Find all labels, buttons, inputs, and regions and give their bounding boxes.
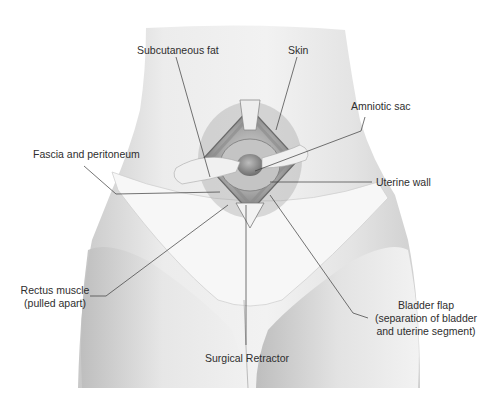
label-surgical-retractor: Surgical Retractor — [205, 352, 289, 365]
label-uterine-wall: Uterine wall — [376, 176, 431, 189]
label-rectus-muscle-line2: (pulled apart) — [20, 297, 90, 310]
label-bladder-flap-line1: Bladder flap — [374, 299, 478, 312]
label-skin: Skin — [288, 44, 308, 57]
label-rectus-muscle-line1: Rectus muscle — [20, 284, 90, 297]
diagram-stage: Subcutaneous fat Skin Amniotic sac Fasci… — [0, 0, 499, 406]
label-rectus-muscle: Rectus muscle (pulled apart) — [20, 284, 90, 310]
label-amniotic-sac: Amniotic sac — [351, 100, 411, 113]
label-bladder-flap-line3: and uterine segment) — [374, 325, 478, 338]
label-fascia-peritoneum: Fascia and peritoneum — [33, 148, 140, 161]
label-bladder-flap: Bladder flap (separation of bladder and … — [374, 299, 478, 338]
label-bladder-flap-line2: (separation of bladder — [374, 312, 478, 325]
anatomy-illustration — [0, 0, 499, 406]
label-subcutaneous-fat: Subcutaneous fat — [137, 44, 219, 57]
